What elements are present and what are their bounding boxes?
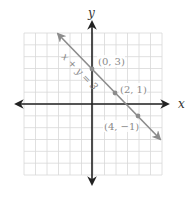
point-2-1 [113, 91, 118, 96]
point-label-4-neg1: (4, −1) [104, 121, 139, 132]
coordinate-plane: x y (0, 3) (2, 1) (4, −1) x + y = 3 [0, 0, 192, 197]
x-axis-label: x [178, 97, 185, 111]
y-axis-label: y [87, 6, 95, 20]
point-label-0-3: (0, 3) [98, 56, 125, 67]
point-0-3 [90, 67, 95, 72]
point-4-neg1 [136, 114, 141, 119]
point-label-2-1: (2, 1) [120, 84, 147, 95]
